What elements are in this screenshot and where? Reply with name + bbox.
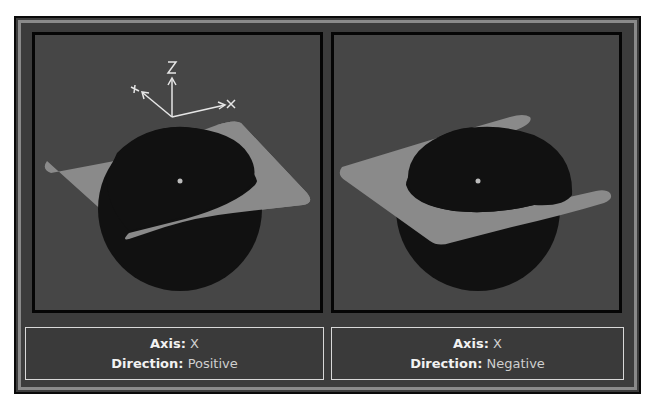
axis-line: Axis: X: [332, 334, 623, 354]
y-label-icon: [131, 85, 139, 93]
axis-label: Axis:: [150, 336, 186, 351]
direction-value: Positive: [188, 356, 238, 371]
z-label-icon: [168, 62, 176, 73]
x-label-icon: [227, 100, 235, 108]
scene-left: [35, 35, 320, 310]
axis-value: X: [190, 336, 199, 351]
direction-label: Direction:: [410, 356, 482, 371]
axis-gizmo: [131, 62, 235, 117]
axis-label: Axis:: [453, 336, 489, 351]
y-axis-line: [143, 93, 172, 117]
axis-value: X: [493, 336, 502, 351]
direction-line: Direction: Positive: [26, 354, 323, 374]
viewport-left: [32, 32, 323, 313]
x-axis-line: [172, 105, 225, 117]
pivot-point: [476, 179, 481, 184]
viewport-right: [331, 32, 622, 313]
pivot-point: [178, 179, 183, 184]
direction-label: Direction:: [111, 356, 183, 371]
axis-line: Axis: X: [26, 334, 323, 354]
direction-value: Negative: [487, 356, 545, 371]
direction-line: Direction: Negative: [332, 354, 623, 374]
comparison-frame: Axis: X Direction: Positive Axis: X Dire…: [14, 16, 641, 394]
caption-right: Axis: X Direction: Negative: [331, 327, 624, 380]
scene-right: [334, 35, 619, 310]
caption-left: Axis: X Direction: Positive: [25, 327, 324, 380]
